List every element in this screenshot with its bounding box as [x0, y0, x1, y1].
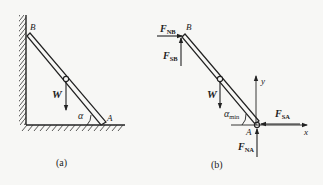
- caption-a: (a): [56, 157, 67, 169]
- center-of-gravity-icon: [217, 76, 222, 81]
- panel-a: W α A B (a): [19, 15, 125, 169]
- ladder-rod: [27, 33, 106, 125]
- weight-label: W: [52, 88, 63, 100]
- point-a-label: A: [106, 113, 113, 123]
- caption-b: (b): [211, 159, 223, 171]
- ladder-diagram: W α A B (a) y x FNB B FSB W αmin A: [0, 0, 323, 185]
- point-b-label: B: [186, 22, 192, 32]
- angle-arc: [242, 114, 246, 125]
- force-sa-label: FSA: [274, 108, 290, 120]
- center-of-gravity-icon: [63, 76, 68, 81]
- angle-min-label: αmin: [224, 108, 240, 120]
- force-nb-label: FNB: [159, 23, 176, 35]
- point-b-label: B: [30, 22, 36, 32]
- x-axis-label: x: [303, 127, 308, 137]
- y-axis-label: y: [260, 76, 265, 86]
- force-na-label: FNA: [237, 141, 254, 153]
- point-a-label: A: [245, 127, 252, 137]
- weight-label: W: [207, 88, 218, 100]
- panel-b: y x FNB B FSB W αmin A FSA FNA (b): [157, 22, 308, 171]
- wall: [19, 15, 26, 125]
- floor: [22, 125, 125, 131]
- angle-label: α: [78, 110, 84, 121]
- ladder-rod-b: [182, 34, 260, 128]
- force-sb-label: FSB: [162, 50, 178, 62]
- angle-arc: [87, 115, 91, 125]
